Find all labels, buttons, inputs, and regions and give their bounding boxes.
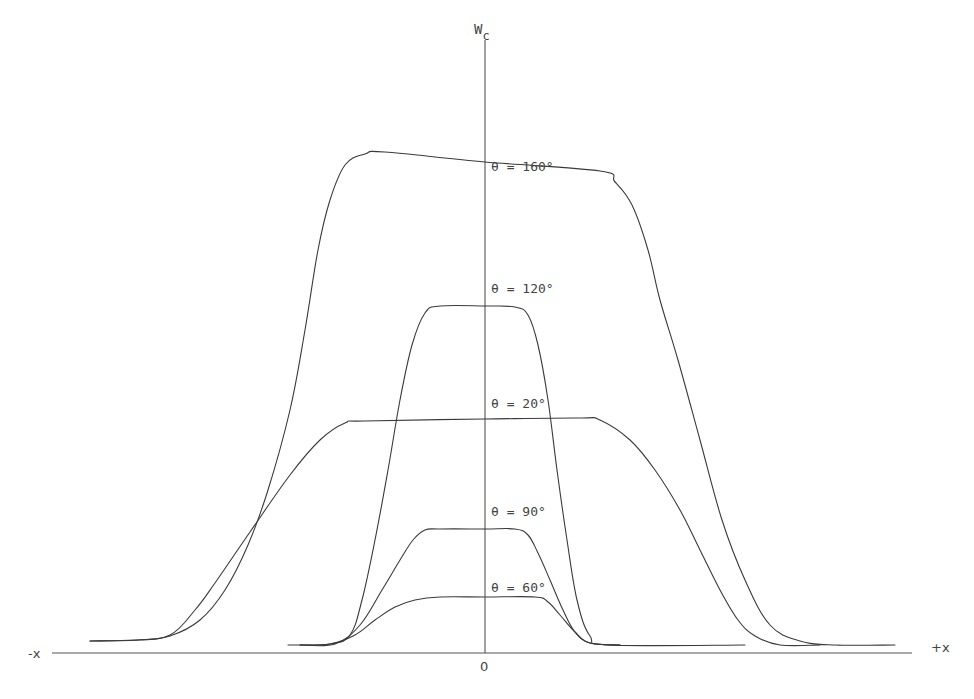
series-label-theta-20: θ = 20° xyxy=(491,397,546,410)
series-label-theta-120: θ = 120° xyxy=(491,282,554,295)
curve-20-deg xyxy=(90,418,820,646)
series-label-theta-60: θ = 60° xyxy=(491,581,546,594)
y-axis-label: Wc xyxy=(474,22,490,42)
x-axis-positive-label: +x xyxy=(931,641,950,654)
x-axis-negative-label: -x xyxy=(28,647,40,660)
series-label-theta-160: θ = 160° xyxy=(491,160,554,173)
chart-plot xyxy=(0,0,974,699)
curve-60-deg xyxy=(300,597,620,646)
series-label-theta-90: θ = 90° xyxy=(491,505,546,518)
origin-label: 0 xyxy=(480,660,488,673)
